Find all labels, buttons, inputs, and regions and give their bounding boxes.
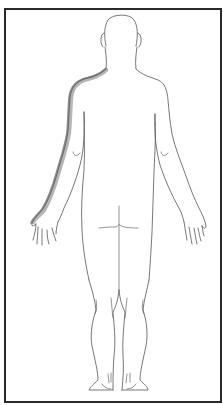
right-leg-outer: [122, 280, 149, 390]
gluteal-crease: [99, 225, 138, 228]
left-ear: [101, 33, 104, 47]
right-ear: [138, 33, 141, 47]
torso-right: [149, 114, 155, 280]
left-ankle-detail: [102, 373, 111, 389]
torso-left: [82, 112, 89, 280]
shaded-region-left-arm[interactable]: [31, 69, 106, 223]
left-elbow: [73, 152, 80, 156]
body-figure-posterior: [0, 0, 223, 405]
neck-right: [136, 47, 137, 69]
left-leg-outer: [89, 280, 113, 390]
neck-left: [105, 47, 106, 69]
left-hand: [33, 222, 58, 245]
head-outline: [105, 15, 138, 46]
right-ankle-detail: [126, 373, 136, 389]
right-elbow: [161, 152, 168, 156]
right-leg-inner: [119, 290, 125, 390]
right-hand: [184, 222, 204, 244]
right-arm-outer: [136, 69, 206, 228]
left-arm-outer: [32, 69, 106, 226]
left-knee-inner: [111, 298, 113, 318]
right-arm-inner: [155, 114, 184, 222]
left-leg-inner: [113, 290, 119, 390]
right-knee-inner: [125, 298, 127, 318]
